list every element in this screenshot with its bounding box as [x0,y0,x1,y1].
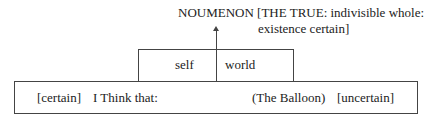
self-world-box [138,49,294,82]
balloon-label: (The Balloon) [252,91,325,104]
world-label: world [225,58,255,71]
i-think-label: I Think that: [93,91,158,104]
noumenon-label-line1: NOUMENON [THE TRUE: indivisible whole: [178,6,424,19]
certain-label: [certain] [37,91,81,104]
noumenon-label-line2: existence certain] [258,22,349,35]
uncertain-label: [uncertain] [337,91,394,104]
self-label: self [175,58,194,71]
